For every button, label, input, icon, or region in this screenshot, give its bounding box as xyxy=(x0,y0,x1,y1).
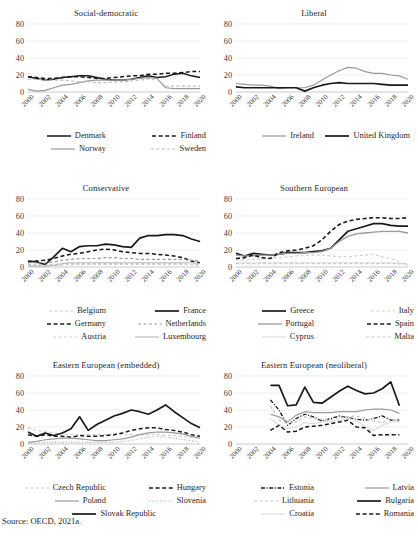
panel-eastern-european-neoliberal: Eastern European (neoliberal) 806040200 … xyxy=(214,360,414,520)
svg-text:40: 40 xyxy=(16,406,24,415)
legend-row: CroatiaRomania xyxy=(214,507,414,520)
legend-swatch xyxy=(260,484,286,492)
svg-text:20: 20 xyxy=(16,71,24,80)
legend-item: Estonia xyxy=(214,481,314,494)
legend-swatch xyxy=(154,307,180,315)
legend-item: United Kingdom xyxy=(314,129,410,142)
chart-3: 806040200 xyxy=(214,195,414,277)
legend-row: CyprusMalta xyxy=(214,330,414,343)
legend-swatch xyxy=(355,510,381,518)
legend-label: Italy xyxy=(399,306,414,315)
panel-title: Eastern European (embedded) xyxy=(6,360,206,372)
legend-row: IrelandUnited Kingdom xyxy=(214,129,414,142)
legend-label: Slovenia xyxy=(177,496,206,505)
legend-swatch xyxy=(365,333,391,341)
x-axis-labels: 2000200220042006200820102012201420162018… xyxy=(6,454,206,480)
legend-row: PortugalSpain xyxy=(214,317,414,330)
series-line xyxy=(270,409,399,422)
legend-swatch xyxy=(134,333,160,341)
series-line xyxy=(236,231,408,256)
legend-item: Italy xyxy=(314,304,414,317)
legend-row: LithuaniaBulgaria xyxy=(214,494,414,507)
svg-text:80: 80 xyxy=(224,20,232,29)
svg-text:0: 0 xyxy=(228,88,232,97)
legend-swatch xyxy=(46,320,72,328)
legend-label: Spain xyxy=(395,319,414,328)
svg-text:20: 20 xyxy=(224,423,232,432)
legend-label: Croatia xyxy=(289,509,314,518)
svg-text:40: 40 xyxy=(224,406,232,415)
legend-row: BelgiumFrance xyxy=(6,304,206,317)
chart-4: 806040200 xyxy=(6,372,206,454)
panel-title: Liberal xyxy=(214,8,414,20)
svg-text:0: 0 xyxy=(20,263,24,272)
panel-title: Eastern European (neoliberal) xyxy=(214,360,414,372)
series-line xyxy=(28,432,200,442)
svg-text:80: 80 xyxy=(16,372,24,381)
legend-label: Austria xyxy=(81,332,106,341)
legend-swatch xyxy=(137,320,163,328)
legend: BelgiumFranceGermanyNetherlandsAustriaLu… xyxy=(6,304,206,343)
legend-swatch xyxy=(257,320,283,328)
x-axis-labels: 2000200220042006200820102012201420162018… xyxy=(6,102,206,128)
legend-item: Belgium xyxy=(6,304,106,317)
cropped-heading-remnant xyxy=(40,0,220,4)
legend-label: Netherlands xyxy=(166,319,206,328)
series-line xyxy=(28,258,200,263)
legend-label: Slovak Republic xyxy=(100,509,156,518)
legend-item: Hungary xyxy=(106,481,206,494)
panel-southern-european: Southern European 806040200 200020022004… xyxy=(214,183,414,343)
legend-swatch xyxy=(150,145,176,153)
svg-text:40: 40 xyxy=(16,229,24,238)
svg-text:0: 0 xyxy=(20,440,24,449)
legend-label: United Kingdom xyxy=(353,131,410,140)
legend-label: Belgium xyxy=(77,306,106,315)
legend-label: Portugal xyxy=(286,319,314,328)
x-axis-labels: 2000200220042006200820102012201420162018… xyxy=(214,102,414,128)
legend: IrelandUnited Kingdom xyxy=(214,129,414,142)
legend: DenmarkFinlandNorwaySweden xyxy=(6,129,206,155)
svg-text:80: 80 xyxy=(224,195,232,204)
legend-item: Netherlands xyxy=(106,317,206,330)
plot-area: 806040200 xyxy=(214,372,414,454)
plot-area: 806040200 xyxy=(214,20,414,102)
legend-item: Latvia xyxy=(314,481,414,494)
plot-area: 806040200 xyxy=(6,195,206,277)
series-line xyxy=(28,405,200,436)
legend-row: GreeceItaly xyxy=(214,304,414,317)
svg-text:80: 80 xyxy=(16,195,24,204)
legend-swatch xyxy=(52,333,78,341)
svg-text:60: 60 xyxy=(16,389,24,398)
svg-text:80: 80 xyxy=(224,372,232,381)
legend-swatch xyxy=(261,307,287,315)
legend-item: Romania xyxy=(314,507,414,520)
legend-swatch xyxy=(24,484,50,492)
legend-label: Finland xyxy=(180,131,206,140)
plot-area: 806040200 xyxy=(6,20,206,102)
legend-row: EstoniaLatvia xyxy=(214,481,414,494)
svg-text:40: 40 xyxy=(224,54,232,63)
svg-text:60: 60 xyxy=(224,37,232,46)
legend-item: Czech Republic xyxy=(6,481,106,494)
series-line xyxy=(236,83,408,92)
legend: GreeceItalyPortugalSpainCyprusMalta xyxy=(214,304,414,343)
legend-item: Spain xyxy=(314,317,414,330)
chart-1: 806040200 xyxy=(214,20,414,102)
panel-liberal: Liberal 806040200 2000200220042006200820… xyxy=(214,8,414,142)
legend-swatch xyxy=(253,497,279,505)
legend-swatch xyxy=(48,307,74,315)
legend-item: Poland xyxy=(6,494,106,507)
legend-row: DenmarkFinland xyxy=(6,129,206,142)
legend-label: Latvia xyxy=(393,483,414,492)
legend-swatch xyxy=(151,132,177,140)
legend-item: Sweden xyxy=(106,142,206,155)
source-note: Source: OECD, 2021a. xyxy=(2,516,81,526)
legend-row: NorwaySweden xyxy=(6,142,206,155)
legend-swatch xyxy=(46,132,72,140)
svg-text:60: 60 xyxy=(16,212,24,221)
legend-label: Sweden xyxy=(179,144,206,153)
legend: Czech RepublicHungaryPolandSloveniaSlova… xyxy=(6,481,206,520)
legend-row: Czech RepublicHungary xyxy=(6,481,206,494)
svg-text:60: 60 xyxy=(224,212,232,221)
legend-swatch xyxy=(148,484,174,492)
